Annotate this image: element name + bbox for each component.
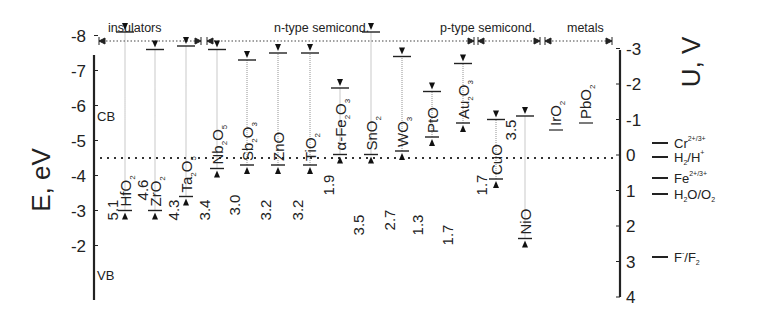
- material-au2o3: Au2O31.7: [439, 55, 475, 246]
- redox-couple: Cr2+/3+: [652, 135, 706, 151]
- band-gap-value: 4.6: [134, 180, 151, 201]
- cb-label: CB: [97, 109, 115, 124]
- material-nb2o5: Nb2O53.4: [196, 41, 229, 221]
- material-label: IrO2: [547, 100, 567, 126]
- right-axis-tick-label: 3: [626, 253, 635, 272]
- material-iro2: IrO2: [547, 100, 567, 130]
- right-axis: -3-2-101234: [616, 40, 641, 308]
- left-axis-tick-label: -6: [71, 97, 86, 116]
- material-ta2o5: Ta2O54.3: [165, 37, 198, 220]
- band-gap-value: 3.5: [350, 215, 367, 236]
- material-label: PtO: [424, 107, 441, 133]
- band-gap-value: 1.7: [473, 175, 490, 196]
- right-axis-tick-label: 1: [626, 182, 635, 201]
- material-sno2: SnO23.5: [350, 23, 383, 235]
- band-gap-value: 3.4: [196, 200, 213, 221]
- category-header: insulatorsn-type semicond.p-type semicon…: [99, 21, 612, 45]
- material-label: ZnO: [270, 132, 287, 161]
- material-label: Ta2O5: [178, 156, 198, 193]
- material-sb2o3: Sb2O33.0: [226, 51, 259, 215]
- material-cuo: CuO1.7: [473, 111, 505, 196]
- redox-label: F-/F2: [674, 249, 700, 266]
- right-axis-tick-label: -1: [626, 111, 641, 130]
- left-axis: -2-3-4-5-6-7-8: [71, 27, 98, 301]
- left-axis-tick-label: -4: [71, 167, 86, 186]
- right-axis-tick-label: 2: [626, 217, 635, 236]
- band-gap-value: 5.1: [104, 200, 121, 221]
- band-gap-value: 2.7: [381, 210, 398, 231]
- material-label: TiO2: [302, 132, 322, 161]
- redox-label: H2O/O2: [674, 187, 715, 203]
- right-axis-tick-label: 4: [626, 288, 635, 307]
- chart-svg: insulatorsn-type semicond.p-type semicon…: [0, 0, 759, 316]
- band-gap-value: 3.2: [289, 200, 306, 221]
- material-pto: PtO1.3: [409, 83, 441, 236]
- category-label: n-type semicond.: [274, 21, 369, 35]
- band-gap-value: 3.5: [502, 120, 519, 141]
- material-label: α-Fe2O3: [332, 98, 352, 150]
- material-label: WO3: [394, 116, 414, 147]
- band-edge-chart: insulatorsn-type semicond.p-type semicon…: [0, 0, 759, 316]
- right-axis-tick-label: -2: [626, 75, 641, 94]
- band-gap-value: 4.3: [165, 200, 182, 221]
- material-fe2o3: α-Fe2O31.9: [320, 79, 352, 195]
- band-gap-value: 1.7: [439, 225, 456, 246]
- material-zro2: ZrO24.6: [134, 41, 167, 220]
- category-label: p-type semicond.: [440, 21, 535, 35]
- y-axis-label-left: E, eV: [26, 148, 56, 212]
- material-label: NiO: [517, 209, 534, 235]
- left-axis-tick-label: -3: [71, 202, 86, 221]
- redox-label: Fe2+/3+: [674, 170, 707, 186]
- material-label: SnO2: [363, 115, 383, 150]
- left-axis-tick-label: -5: [71, 132, 86, 151]
- material-label: Au2O3: [455, 80, 475, 119]
- material-label: CuO: [488, 144, 505, 175]
- material-nio: NiO3.5: [502, 107, 534, 248]
- left-axis-tick-label: -8: [71, 27, 86, 46]
- redox-couple: H2/H+: [652, 149, 704, 166]
- right-axis-tick-label: 0: [626, 146, 635, 165]
- material-zno: ZnO3.2: [257, 44, 287, 220]
- left-axis-tick-label: -2: [71, 237, 86, 256]
- redox-label: H2/H+: [674, 149, 704, 166]
- band-gap-value: 3.0: [226, 195, 243, 216]
- materials-group: HfO25.1ZrO24.6Ta2O54.3Nb2O53.4Sb2O33.0Zn…: [97, 23, 597, 283]
- redox-couples: Cr2+/3+H2/H+Fe2+/3+H2O/O2F-/F2: [652, 135, 715, 266]
- material-pbo2: PbO2: [577, 84, 597, 123]
- vb-label: VB: [97, 268, 114, 283]
- category-label: metals: [567, 21, 604, 35]
- category-label: insulators: [108, 21, 162, 35]
- right-axis-tick-label: -3: [626, 40, 641, 59]
- redox-couple: F-/F2: [652, 249, 700, 266]
- band-gap-value: 3.2: [257, 200, 274, 221]
- band-gap-value: 1.3: [409, 215, 426, 236]
- material-label: Sb2O3: [239, 122, 259, 161]
- y-axis-label-right: U, V: [676, 36, 706, 87]
- left-axis-tick-label: -7: [71, 62, 86, 81]
- material-tio2: TiO23.2: [289, 44, 322, 220]
- band-gap-value: 1.9: [320, 175, 337, 196]
- material-label: PbO2: [577, 84, 597, 119]
- material-wo3: WO32.7: [381, 48, 414, 231]
- redox-couple: H2O/O2: [652, 187, 715, 203]
- redox-couple: Fe2+/3+: [652, 170, 707, 186]
